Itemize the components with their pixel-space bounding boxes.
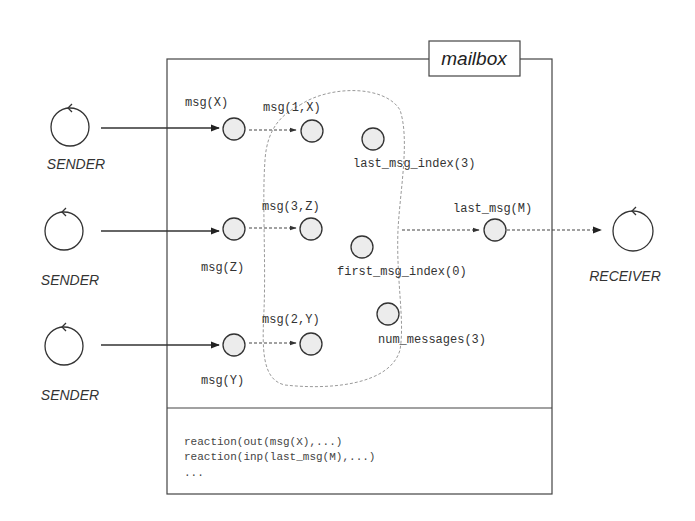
sender-label: SENDER bbox=[41, 387, 99, 403]
reaction-line: ... bbox=[184, 467, 204, 479]
receiver-agent-icon bbox=[613, 211, 653, 251]
indexed-msg-1: msg(1,X) bbox=[263, 101, 323, 142]
msg-token bbox=[300, 333, 322, 355]
sender-1: SENDER bbox=[47, 104, 219, 172]
indexed-msg-3: msg(3,Z) bbox=[262, 200, 322, 240]
sender-label: SENDER bbox=[47, 156, 105, 172]
receiver-label: RECEIVER bbox=[589, 268, 661, 284]
msg-label: msg(2,Y) bbox=[262, 313, 320, 327]
last-msg-index-tuple: last_msg_index(3) bbox=[353, 128, 475, 171]
state-label: last_msg_index(3) bbox=[353, 157, 475, 171]
msg-token bbox=[223, 118, 245, 140]
mailbox-title: mailbox bbox=[441, 48, 508, 69]
msg-label: msg(Y) bbox=[201, 374, 244, 388]
last-msg-output: last_msg(M) bbox=[402, 202, 601, 241]
msg-label: msg(X) bbox=[185, 96, 228, 110]
state-token bbox=[351, 236, 373, 258]
incoming-msg-y: msg(Y) bbox=[201, 334, 296, 388]
state-token bbox=[377, 303, 399, 325]
msg-token bbox=[223, 218, 245, 240]
state-token bbox=[362, 128, 384, 150]
sender-3: SENDER bbox=[41, 323, 219, 403]
sender-label: SENDER bbox=[41, 272, 99, 288]
msg-label: msg(3,Z) bbox=[262, 200, 320, 214]
last-msg-token bbox=[484, 219, 506, 241]
msg-token bbox=[301, 120, 323, 142]
reaction-line: reaction(out(msg(X),...) bbox=[184, 436, 342, 448]
msg-label: msg(Z) bbox=[201, 261, 244, 275]
mailbox-diagram: mailbox SENDER SENDER SENDER msg(X) msg(… bbox=[0, 0, 695, 521]
incoming-msg-z: msg(Z) bbox=[201, 218, 296, 275]
sender-agent-icon bbox=[45, 327, 83, 365]
num-messages-tuple: num_messages(3) bbox=[377, 303, 486, 347]
state-label: num_messages(3) bbox=[378, 333, 486, 347]
msg-label: msg(1,X) bbox=[263, 101, 321, 115]
receiver: RECEIVER bbox=[589, 207, 661, 284]
reaction-line: reaction(inp(last_msg(M),...) bbox=[184, 451, 375, 463]
state-label: first_msg_index(0) bbox=[337, 265, 467, 279]
indexed-msg-2: msg(2,Y) bbox=[262, 313, 322, 355]
sender-2: SENDER bbox=[41, 208, 219, 288]
last-msg-label: last_msg(M) bbox=[453, 202, 532, 216]
first-msg-index-tuple: first_msg_index(0) bbox=[337, 236, 467, 279]
sender-agent-icon bbox=[45, 212, 83, 250]
reactions-section: reaction(out(msg(X),...) reaction(inp(la… bbox=[184, 436, 375, 479]
msg-token bbox=[223, 334, 245, 356]
sender-agent-icon bbox=[51, 108, 89, 146]
msg-token bbox=[300, 218, 322, 240]
